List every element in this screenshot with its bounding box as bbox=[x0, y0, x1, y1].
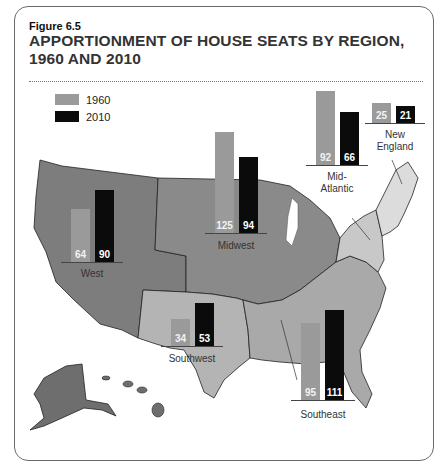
legend-swatch-2010 bbox=[55, 111, 79, 122]
baseline-southeast bbox=[291, 400, 355, 401]
region-southwest: 34 53 bbox=[166, 300, 224, 346]
legend-label-2010: 2010 bbox=[86, 111, 110, 123]
region-label-southwest: Southwest bbox=[161, 353, 223, 365]
baseline-southwest bbox=[161, 346, 223, 347]
region-label-mid-atlantic: Mid- Atlantic bbox=[306, 171, 368, 195]
baseline-west bbox=[61, 262, 123, 263]
bar-new-england-1960: 25 bbox=[372, 103, 391, 123]
bar-west-2010: 90 bbox=[95, 190, 114, 262]
baseline-new-england bbox=[365, 123, 425, 124]
bar-west-1960: 64 bbox=[71, 209, 90, 262]
bar-midwest-2010: 94 bbox=[239, 157, 258, 233]
baseline-midwest bbox=[205, 233, 267, 234]
bar-midwest-1960: 125 bbox=[215, 132, 234, 233]
bar-southwest-1960: 34 bbox=[171, 319, 190, 346]
region-label-new-england: New England bbox=[365, 129, 425, 153]
chart-legend: 1960 2010 bbox=[55, 91, 110, 125]
bar-mid-atlantic-1960: 92 bbox=[316, 91, 335, 165]
legend-swatch-1960 bbox=[55, 94, 79, 105]
bar-southeast-2010: 111 bbox=[325, 310, 344, 400]
region-mid-atlantic: 92 66 bbox=[311, 90, 369, 165]
legend-label-1960: 1960 bbox=[86, 94, 110, 106]
region-label-midwest: Midwest bbox=[205, 240, 267, 252]
region-southeast: 95 111 bbox=[297, 308, 355, 400]
bar-southeast-1960: 95 bbox=[301, 323, 320, 400]
bar-new-england-2010: 21 bbox=[396, 106, 415, 123]
region-new-england: 25 21 bbox=[368, 100, 426, 123]
legend-item-1960: 1960 bbox=[55, 91, 110, 108]
baseline-mid-atlantic bbox=[306, 165, 368, 166]
region-label-southeast: Southeast bbox=[291, 409, 355, 421]
map-alaska bbox=[30, 364, 116, 430]
bar-mid-atlantic-2010: 66 bbox=[340, 112, 359, 165]
map-new-england bbox=[376, 162, 418, 236]
bar-southwest-2010: 53 bbox=[195, 303, 214, 346]
legend-item-2010: 2010 bbox=[55, 108, 110, 125]
region-midwest: 125 94 bbox=[210, 130, 268, 233]
region-label-west: West bbox=[61, 268, 123, 280]
region-west: 64 90 bbox=[66, 180, 124, 262]
